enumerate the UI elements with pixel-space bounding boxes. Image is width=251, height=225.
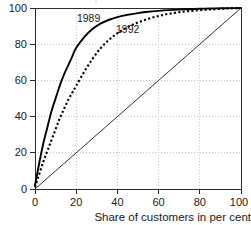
x-tick-labels: 0 20 40 60 80 100 xyxy=(32,196,248,208)
x-tick-label-40: 40 xyxy=(111,196,123,208)
x-tick-label-20: 20 xyxy=(70,196,82,208)
y-tick-label-0: 0 xyxy=(21,183,27,195)
y-tick-label-20: 20 xyxy=(15,146,27,158)
x-tick-label-0: 0 xyxy=(32,196,38,208)
series-label-1992: 1992 xyxy=(116,23,140,35)
chart-screenshot: 0 20 40 60 80 100 0 20 40 60 80 100 Shar… xyxy=(0,0,251,225)
x-axis-title: Share of customers in per cent xyxy=(94,211,251,223)
lorenz-curve-chart: 0 20 40 60 80 100 0 20 40 60 80 100 Shar… xyxy=(0,0,251,225)
x-tick-label-80: 80 xyxy=(194,196,206,208)
y-tick-label-100: 100 xyxy=(9,2,27,14)
x-tick-marks xyxy=(35,189,241,194)
x-tick-label-60: 60 xyxy=(152,196,164,208)
series-label-1989: 1989 xyxy=(77,12,101,24)
x-tick-label-100: 100 xyxy=(230,196,248,208)
y-tick-marks xyxy=(30,8,35,189)
y-tick-label-40: 40 xyxy=(15,110,27,122)
y-tick-label-60: 60 xyxy=(15,74,27,86)
y-tick-labels: 0 20 40 60 80 100 xyxy=(9,2,27,195)
y-tick-label-80: 80 xyxy=(15,38,27,50)
